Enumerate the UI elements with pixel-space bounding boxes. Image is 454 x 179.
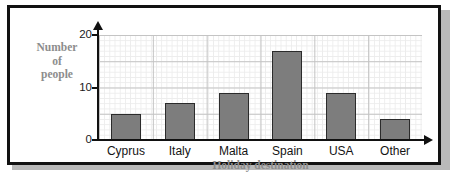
- y-tick-10: 10: [50, 82, 92, 93]
- plot-area: [99, 35, 422, 140]
- x-axis-line: [97, 139, 427, 141]
- y-tick-mark-10: [92, 87, 99, 89]
- category-label-malta: Malta: [207, 144, 261, 158]
- category-label-italy: Italy: [153, 144, 207, 158]
- bar-italy: [165, 103, 195, 140]
- y-axis-line: [97, 28, 99, 141]
- y-axis-title: Number of people: [24, 41, 90, 82]
- chart-frame: Number of people 01020 CyprusItalyMaltaS…: [7, 5, 441, 165]
- y-tick-label-10: 10: [58, 82, 92, 93]
- y-tick-label-20: 20: [58, 29, 92, 40]
- y-axis-arrow-icon: [93, 21, 103, 30]
- y-tick-label-0: 0: [58, 134, 92, 145]
- bar-spain: [272, 51, 302, 140]
- y-axis-title-line-1: Number: [24, 41, 90, 55]
- y-tick-20: 20: [50, 29, 92, 40]
- grid-major: [99, 35, 422, 140]
- y-tick-mark-0: [92, 139, 99, 141]
- bar-usa: [326, 93, 356, 140]
- y-tick-0: 0: [50, 134, 92, 145]
- bar-malta: [219, 93, 249, 140]
- category-label-usa: USA: [314, 144, 368, 158]
- category-label-spain: Spain: [260, 144, 314, 158]
- bar-other: [380, 119, 410, 140]
- category-label-other: Other: [368, 144, 422, 158]
- category-label-cyprus: Cyprus: [99, 144, 153, 158]
- bar-cyprus: [111, 114, 141, 140]
- y-axis-title-line-2: of: [24, 55, 90, 69]
- y-axis-title-line-3: people: [24, 68, 90, 82]
- y-tick-mark-20: [92, 34, 99, 36]
- bar-chart-figure: Number of people 01020 CyprusItalyMaltaS…: [0, 0, 454, 179]
- x-axis-title: Holiday destination: [99, 159, 422, 171]
- x-axis-arrow-icon: [424, 135, 433, 145]
